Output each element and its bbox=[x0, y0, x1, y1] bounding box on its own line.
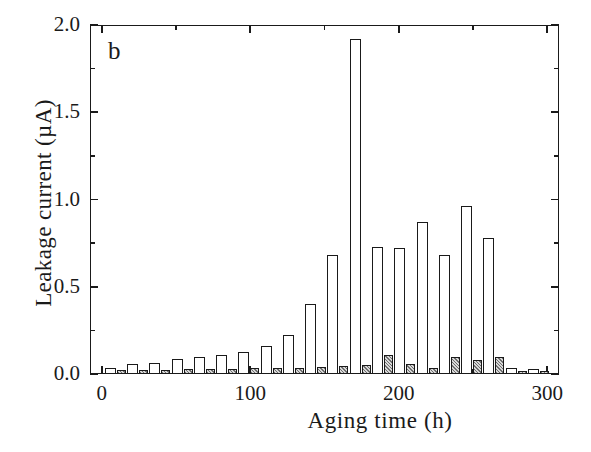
plot-area bbox=[90, 25, 559, 374]
y-tick-major-right bbox=[551, 24, 559, 26]
y-tick-major-right bbox=[551, 111, 559, 113]
x-tick-minor-top bbox=[324, 25, 326, 30]
y-tick-minor-right bbox=[554, 242, 559, 244]
x-tick-major bbox=[546, 366, 548, 374]
x-tick-minor bbox=[324, 369, 326, 374]
y-tick-minor bbox=[90, 68, 95, 70]
y-axis-title: Leakage current (µA) bbox=[31, 38, 57, 368]
x-axis-title: Aging time (h) bbox=[200, 408, 560, 434]
x-tick-major-top bbox=[249, 25, 251, 33]
x-tick-major bbox=[398, 366, 400, 374]
x-tick-label: 0 bbox=[62, 381, 142, 406]
y-tick-major bbox=[90, 24, 98, 26]
y-tick-major bbox=[90, 286, 98, 288]
y-tick-major-right bbox=[551, 373, 559, 375]
figure-root: 0.00.51.01.52.0 0100200300 Leakage curre… bbox=[0, 0, 591, 452]
x-tick-label: 100 bbox=[210, 381, 290, 406]
y-tick-minor-right bbox=[554, 155, 559, 157]
x-tick-major-top bbox=[546, 25, 548, 33]
panel-label: b bbox=[108, 38, 121, 63]
x-tick-minor bbox=[472, 369, 474, 374]
y-tick-major bbox=[90, 111, 98, 113]
x-tick-minor-top bbox=[175, 25, 177, 30]
y-tick-minor-right bbox=[554, 330, 559, 332]
y-tick-label: 2.0 bbox=[20, 12, 80, 37]
x-tick-label: 200 bbox=[359, 381, 439, 406]
x-tick-minor-top bbox=[472, 25, 474, 30]
x-tick-minor bbox=[175, 369, 177, 374]
x-tick-major bbox=[101, 366, 103, 374]
y-tick-minor bbox=[90, 155, 95, 157]
x-tick-major-top bbox=[398, 25, 400, 33]
y-tick-minor bbox=[90, 242, 95, 244]
y-tick-major bbox=[90, 373, 98, 375]
y-tick-major-right bbox=[551, 199, 559, 201]
y-tick-major bbox=[90, 199, 98, 201]
x-tick-major bbox=[249, 366, 251, 374]
y-tick-minor bbox=[90, 330, 95, 332]
x-tick-label: 300 bbox=[507, 381, 587, 406]
x-tick-major-top bbox=[101, 25, 103, 33]
y-tick-minor-right bbox=[554, 68, 559, 70]
y-tick-major-right bbox=[551, 286, 559, 288]
